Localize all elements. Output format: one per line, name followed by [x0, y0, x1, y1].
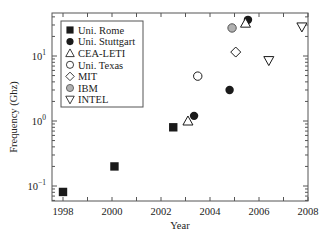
legend-label: Uni. Texas: [78, 60, 123, 71]
y-tick-label: 100: [32, 113, 47, 127]
series-intel: [264, 23, 307, 66]
triangle-down-marker: [264, 57, 274, 66]
x-tick-label: 2002: [151, 206, 172, 217]
gray-circle-marker: [228, 24, 236, 32]
square-marker: [66, 26, 73, 33]
y-axis-title: Frequency (Ghz): [8, 81, 20, 153]
square-marker: [169, 123, 177, 131]
series-uni-stuttgart: [190, 16, 252, 120]
filled-circle-marker: [190, 112, 198, 120]
x-tick-label: 1998: [53, 206, 74, 217]
legend-label: MIT: [78, 71, 98, 82]
x-tick-label: 2000: [102, 206, 123, 217]
square-marker: [59, 188, 67, 196]
x-tick-label: 2004: [200, 206, 222, 217]
legend-label: CEA-LETI: [78, 48, 126, 59]
series-mit: [231, 47, 241, 57]
series-uni-texas: [194, 72, 202, 80]
filled-circle-marker: [225, 86, 233, 94]
series-cea-leti: [183, 18, 251, 125]
legend-label: Uni. Stuttgart: [78, 36, 135, 47]
legend-label: INTEL: [78, 94, 108, 105]
open-circle-marker: [66, 61, 73, 68]
y-tick-label: 101: [32, 48, 47, 62]
legend-label: Uni. Rome: [78, 25, 124, 36]
y-tick-label: 10−1: [28, 178, 47, 192]
x-tick-label: 2006: [249, 206, 270, 217]
diamond-marker: [231, 47, 241, 57]
square-marker: [110, 162, 118, 170]
series-ibm: [228, 24, 236, 32]
gray-circle-marker: [66, 84, 73, 91]
triangle-down-marker: [297, 23, 307, 32]
legend-label: IBM: [78, 83, 99, 94]
legend-item: MIT: [66, 71, 98, 82]
scatter-chart: 19982000200220042006200810−1100101 Year …: [0, 0, 332, 240]
open-circle-marker: [194, 72, 202, 80]
x-axis-title: Year: [170, 220, 190, 231]
x-tick-label: 2008: [298, 206, 319, 217]
legend: Uni. RomeUni. StuttgartCEA-LETIUni. Texa…: [61, 21, 143, 107]
filled-circle-marker: [66, 38, 73, 45]
series-uni-rome: [59, 123, 178, 196]
